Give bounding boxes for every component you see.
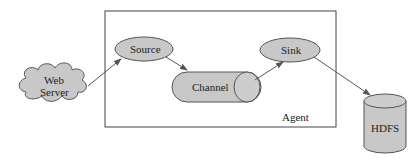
- source-node: Source: [115, 37, 173, 61]
- edge-source-channel: [166, 57, 187, 70]
- web-server-label-1: Web: [44, 74, 64, 86]
- sink-label: Sink: [281, 44, 302, 56]
- flume-diagram: Agent Web Server Source Channel Sink HDF…: [0, 0, 420, 163]
- source-label: Source: [130, 43, 161, 55]
- agent-box: [105, 11, 336, 127]
- agent-label: Agent: [282, 111, 309, 123]
- web-server-label-2: Server: [40, 86, 69, 98]
- edge-sink-hdfs: [314, 57, 370, 95]
- sink-node: Sink: [260, 38, 320, 62]
- web-server-node: Web Server: [19, 63, 86, 101]
- hdfs-node: HDFS: [364, 94, 406, 153]
- channel-label: Channel: [192, 81, 229, 93]
- channel-node: Channel: [172, 72, 261, 102]
- edge-channel-sink: [255, 62, 283, 80]
- hdfs-label: HDFS: [371, 122, 399, 134]
